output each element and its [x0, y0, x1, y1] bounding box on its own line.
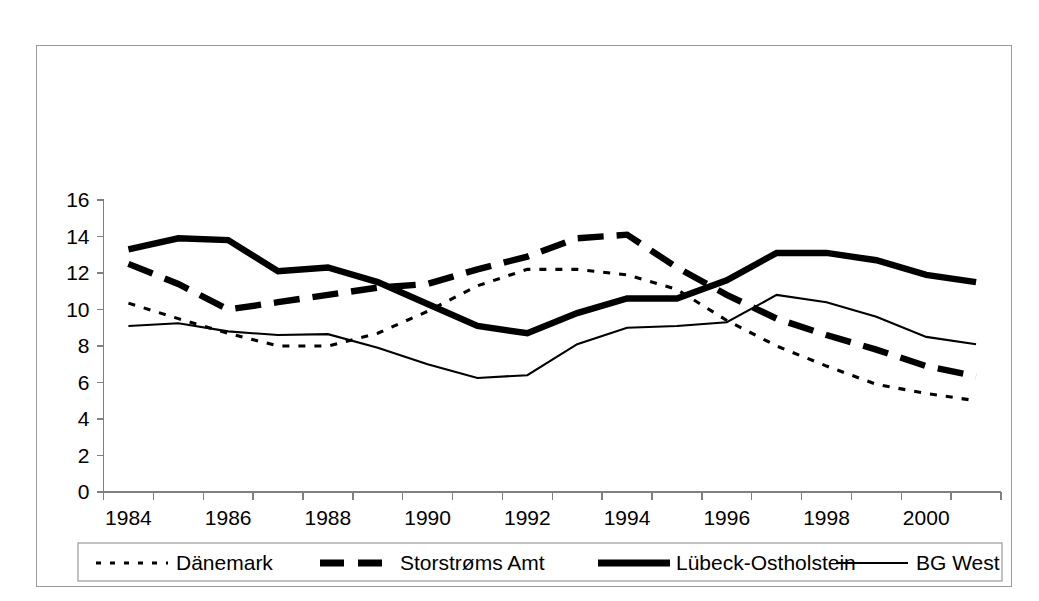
x-tick-label: 1986 — [205, 506, 252, 529]
x-tick-label: 1992 — [504, 506, 551, 529]
x-tick-label: 1988 — [305, 506, 352, 529]
y-tick-label: 10 — [66, 298, 89, 321]
x-tick-label: 1990 — [404, 506, 451, 529]
x-tick-label: 1996 — [703, 506, 750, 529]
y-tick-label: 12 — [66, 261, 89, 284]
chart-legend: DänemarkStorstrøms AmtLübeck-Ostholstein… — [78, 543, 1002, 581]
x-tick-label: 1994 — [604, 506, 651, 529]
y-tick-label: 6 — [78, 371, 90, 394]
series-line-l-beck-ostholstein — [128, 238, 976, 333]
x-tick-label: 2000 — [903, 506, 950, 529]
legend-label: Storstrøms Amt — [400, 551, 545, 574]
chart-figure: 0246810121416 19841986198819901992199419… — [0, 0, 1039, 601]
y-tick-label: 0 — [78, 480, 90, 503]
x-tick-label: 1984 — [105, 506, 152, 529]
series-line-d-nemark — [128, 269, 976, 400]
y-tick-label: 2 — [78, 444, 90, 467]
x-tick-label: 1998 — [803, 506, 850, 529]
line-chart: 0246810121416 19841986198819901992199419… — [0, 0, 1039, 601]
series-lines — [128, 235, 976, 401]
y-tick-label: 8 — [78, 334, 90, 357]
y-tick-label: 16 — [66, 188, 89, 211]
y-tick-label: 14 — [66, 225, 90, 248]
legend-label: Lübeck-Ostholstein — [676, 551, 856, 574]
y-axis: 0246810121416 — [66, 188, 103, 503]
x-axis: 198419861988199019921994199619982000 — [104, 492, 1002, 529]
y-tick-label: 4 — [78, 407, 90, 430]
legend-label: BG West — [916, 551, 1000, 574]
legend-label: Dänemark — [176, 551, 273, 574]
